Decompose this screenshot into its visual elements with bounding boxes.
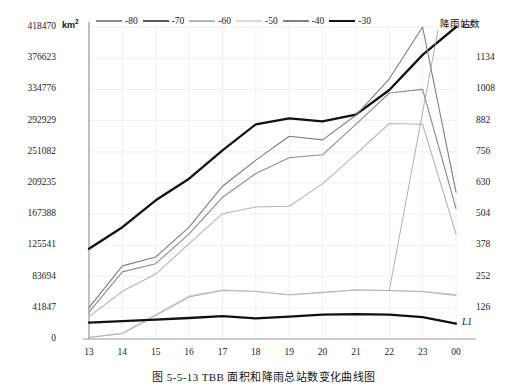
series-line-70 <box>89 290 456 338</box>
annotation-rain-stations: 降雨站数 <box>440 16 480 30</box>
annotation-l2: L2 <box>462 20 472 30</box>
series-line-L2 <box>89 290 456 338</box>
series-line-40 <box>89 27 456 308</box>
chart-figure: -80-70-60-50-40-30 km2 41847037662333477… <box>0 0 528 391</box>
series-line-50 <box>89 89 456 312</box>
annotation-leader-line <box>389 30 438 290</box>
annotation-l1: L1 <box>462 317 472 327</box>
series-line-60 <box>89 124 456 317</box>
figure-caption: 图 5-5-13 TBB 面积和降雨总站数变化曲线图 <box>0 368 528 384</box>
plot-area <box>0 0 528 391</box>
